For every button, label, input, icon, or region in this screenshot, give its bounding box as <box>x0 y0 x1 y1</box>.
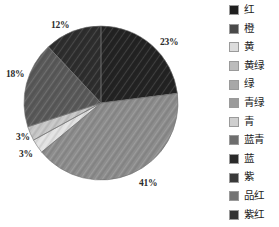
legend-item-label: 蓝青 <box>244 135 264 146</box>
legend-swatch-icon <box>229 5 239 15</box>
legend-item[interactable]: 蓝 <box>229 150 279 169</box>
legend-swatch-icon <box>229 61 239 71</box>
pie-label-3-upper: 3% <box>16 133 30 143</box>
legend-swatch-icon <box>229 173 239 183</box>
legend-swatch-icon <box>229 135 239 145</box>
pie-label-3-lower: 3% <box>19 150 33 160</box>
legend-item-label: 黄 <box>244 42 254 53</box>
pie-plot-area: 23% 41% 3% 3% 18% 12% <box>0 0 222 227</box>
legend-item-label: 绿 <box>244 79 254 90</box>
legend-item-label: 青 <box>244 117 254 128</box>
legend-swatch-icon <box>229 24 239 34</box>
chart-legend: 红橙黄黄绿绿青绿青蓝青蓝紫品红紫红 <box>229 1 279 226</box>
legend-swatch-icon <box>229 191 239 201</box>
legend-item[interactable]: 青 <box>229 113 279 132</box>
legend-item-label: 橙 <box>244 24 254 35</box>
legend-item-label: 蓝 <box>244 154 254 165</box>
legend-item[interactable]: 黄 <box>229 38 279 57</box>
pie-label-12: 12% <box>51 21 69 31</box>
legend-item[interactable]: 黄绿 <box>229 57 279 76</box>
legend-item[interactable]: 紫红 <box>229 206 279 225</box>
legend-swatch-icon <box>229 117 239 127</box>
legend-item-label: 品红 <box>244 191 264 202</box>
legend-item-label: 红 <box>244 5 254 16</box>
legend-item[interactable]: 紫 <box>229 168 279 187</box>
legend-item[interactable]: 品红 <box>229 187 279 206</box>
legend-item[interactable]: 橙 <box>229 20 279 39</box>
legend-item[interactable]: 青绿 <box>229 94 279 113</box>
pie-label-41: 41% <box>139 179 157 189</box>
pie-svg <box>0 0 222 227</box>
legend-item-label: 紫 <box>244 172 254 183</box>
legend-item[interactable]: 绿 <box>229 75 279 94</box>
pie-label-18: 18% <box>6 70 24 80</box>
legend-swatch-icon <box>229 210 239 220</box>
legend-item[interactable]: 蓝青 <box>229 131 279 150</box>
legend-swatch-icon <box>229 154 239 164</box>
legend-item-label: 紫红 <box>244 210 264 221</box>
legend-swatch-icon <box>229 98 239 108</box>
legend-item-label: 青绿 <box>244 98 264 109</box>
legend-swatch-icon <box>229 42 239 52</box>
pie-chart-figure: 23% 41% 3% 3% 18% 12% 红橙黄黄绿绿青绿青蓝青蓝紫品红紫红 <box>0 0 279 227</box>
legend-swatch-icon <box>229 80 239 90</box>
legend-item-label: 黄绿 <box>244 61 264 72</box>
pie-label-23: 23% <box>160 38 178 48</box>
legend-item[interactable]: 红 <box>229 1 279 20</box>
